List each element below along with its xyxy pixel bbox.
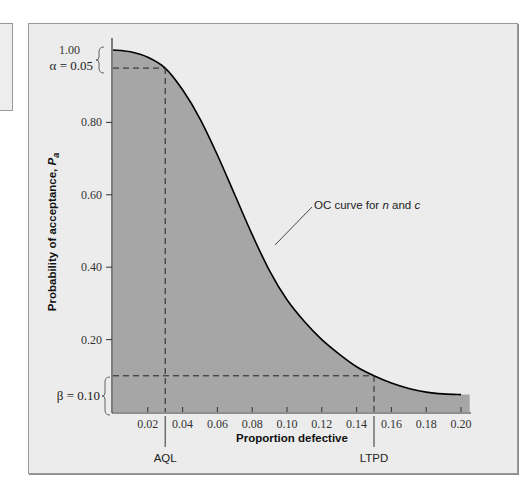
y-axis-ticks: 0.200.400.600.80 [81, 115, 112, 346]
x-tick-label: 0.04 [172, 417, 193, 431]
x-tick-label: 0.18 [416, 417, 437, 431]
x-tick-label: 0.08 [242, 417, 263, 431]
y-tick-label: 0.40 [81, 260, 102, 274]
x-tick-label: 0.06 [207, 417, 228, 431]
x-tick-label: 0.12 [311, 417, 332, 431]
alpha-label: α = 0.05 [50, 58, 93, 73]
x-tick-label: 0.20 [451, 417, 472, 431]
area-under-curve [113, 50, 470, 412]
x-tick-label: 0.14 [346, 417, 367, 431]
y-axis-title: Probability of acceptance, Pa [46, 153, 61, 311]
oc-curve-chart: 0.200.400.600.80 0.020.040.060.080.100.1… [0, 0, 530, 503]
curve-label-leader [275, 207, 312, 245]
y-tick-label: 0.60 [81, 188, 102, 202]
x-tick-label: 0.16 [381, 417, 402, 431]
x-tick-label: 0.10 [277, 417, 298, 431]
oc-curve-label: OC curve for n and c [314, 199, 420, 211]
y-tick-label-1.00: 1.00 [59, 43, 80, 57]
x-tick-label: 0.02 [137, 417, 158, 431]
beta-label: β = 0.10 [57, 388, 100, 403]
beta-brace [102, 377, 110, 415]
alpha-brace [96, 47, 104, 73]
y-tick-label: 0.20 [81, 333, 102, 347]
aql-label: AQL [154, 452, 178, 464]
ltpd-label: LTPD [360, 452, 389, 464]
x-axis-title: Proportion defective [236, 432, 348, 444]
y-tick-label: 0.80 [81, 115, 102, 129]
